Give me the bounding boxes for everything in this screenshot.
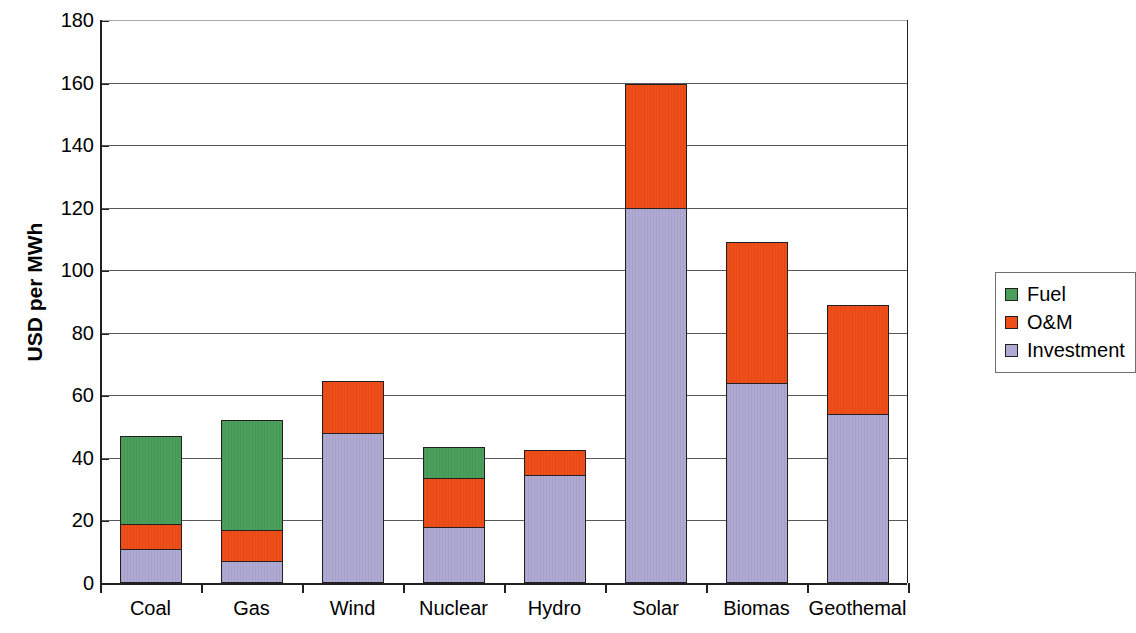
bar-segment-investment[interactable] [423,527,485,583]
x-axis: CoalGasWindNuclearHydroSolarBiomasGeothe… [100,583,908,633]
bar-stack[interactable] [120,436,182,583]
bar-segment-investment[interactable] [524,475,586,583]
x-axis-tick-mark [100,583,102,593]
bar-segment-investment[interactable] [221,561,283,583]
bar-slot [504,20,605,583]
x-axis-tick-mark [302,583,304,593]
bar-stack[interactable] [423,447,485,583]
bar-slot [807,20,908,583]
x-axis-label-wind: Wind [330,596,376,620]
bar-segment-fuel[interactable] [221,420,283,529]
bar-segment-investment[interactable] [827,414,889,583]
bar-segment-o-m[interactable] [221,530,283,561]
legend-swatch-icon [1005,344,1018,357]
bar-segment-investment[interactable] [120,549,182,583]
bar-slot [403,20,504,583]
bar-segment-o-m[interactable] [726,242,788,383]
legend-item-fuel[interactable]: Fuel [1005,280,1125,308]
chart-legend: FuelO&MInvestment [995,272,1136,373]
legend-swatch-icon [1005,316,1018,329]
bar-segment-o-m[interactable] [827,305,889,414]
bar-segment-fuel[interactable] [423,447,485,478]
bar-stack[interactable] [827,305,889,583]
legend-item-o-m[interactable]: O&M [1005,308,1125,336]
x-axis-tick-mark [908,583,910,593]
bar-segment-o-m[interactable] [120,524,182,549]
x-axis-tick-mark [706,583,708,593]
bar-segment-o-m[interactable] [322,381,384,433]
bar-segment-investment[interactable] [625,208,687,583]
bar-slot [605,20,706,583]
bar-segment-o-m[interactable] [524,450,586,475]
bar-stack[interactable] [524,450,586,583]
bar-segment-o-m[interactable] [625,84,687,208]
bar-segment-investment[interactable] [322,433,384,583]
bar-slot [706,20,807,583]
x-axis-tick-mark [403,583,405,593]
x-axis-tick-mark [807,583,809,593]
bar-segment-investment[interactable] [726,383,788,583]
bar-slot [302,20,403,583]
x-axis-label-nuclear: Nuclear [419,596,488,620]
legend-swatch-icon [1005,288,1018,301]
bar-slot [201,20,302,583]
x-axis-tick-mark [605,583,607,593]
x-axis-label-coal: Coal [130,596,171,620]
x-axis-label-solar: Solar [632,596,679,620]
bars-layer [100,20,908,583]
legend-label: Fuel [1027,284,1066,304]
bar-stack[interactable] [625,84,687,583]
legend-item-investment[interactable]: Investment [1005,336,1125,364]
bar-slot [100,20,201,583]
x-axis-label-geothemal: Geothemal [809,596,907,620]
x-axis-tick-mark [504,583,506,593]
bar-stack[interactable] [221,420,283,583]
legend-label: Investment [1027,340,1125,360]
x-axis-label-biomas: Biomas [723,596,790,620]
bar-segment-fuel[interactable] [120,436,182,524]
x-axis-label-gas: Gas [233,596,270,620]
legend-label: O&M [1027,312,1073,332]
bar-stack[interactable] [726,242,788,583]
bar-segment-o-m[interactable] [423,478,485,526]
bar-stack[interactable] [322,381,384,583]
x-axis-label-hydro: Hydro [528,596,581,620]
x-axis-tick-mark [201,583,203,593]
